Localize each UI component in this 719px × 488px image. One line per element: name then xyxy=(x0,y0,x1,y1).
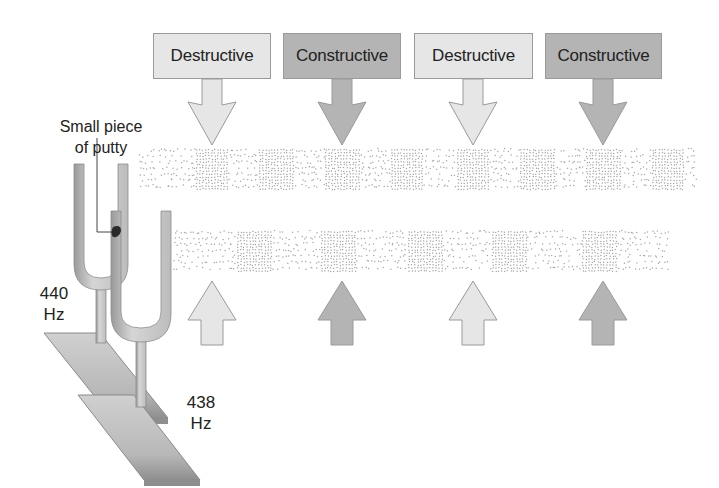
top-sound-wave-band xyxy=(139,148,697,191)
down-arrows xyxy=(188,79,627,145)
constructive-label-box: Constructive xyxy=(283,33,401,79)
fork-440-freq: 440 xyxy=(28,283,80,304)
fork-438-unit: Hz xyxy=(175,413,227,434)
up-arrows xyxy=(188,281,627,345)
constructive-label-box: Constructive xyxy=(545,33,662,79)
fork-440-label: 440 Hz xyxy=(28,283,80,325)
down-arrow-icon xyxy=(579,79,627,145)
bottom-sound-wave-band xyxy=(173,230,669,273)
fork-438-freq: 438 xyxy=(175,392,227,413)
up-arrow-icon xyxy=(449,281,497,345)
beats-diagram: DestructiveConstructiveDestructiveConstr… xyxy=(0,0,719,488)
down-arrow-icon xyxy=(318,79,366,145)
fork-438-label: 438 Hz xyxy=(175,392,227,434)
destructive-label-box: Destructive xyxy=(153,33,271,79)
putty-label-line-2: of putty xyxy=(46,137,156,158)
down-arrow-icon xyxy=(188,79,236,145)
up-arrow-icon xyxy=(318,281,366,345)
putty-label-line-1: Small piece xyxy=(46,116,156,137)
up-arrow-icon xyxy=(188,281,236,345)
up-arrow-icon xyxy=(579,281,627,345)
fork-440-unit: Hz xyxy=(28,304,80,325)
putty-label: Small piece of putty xyxy=(46,116,156,158)
down-arrow-icon xyxy=(449,79,497,145)
destructive-label-box: Destructive xyxy=(414,33,533,79)
